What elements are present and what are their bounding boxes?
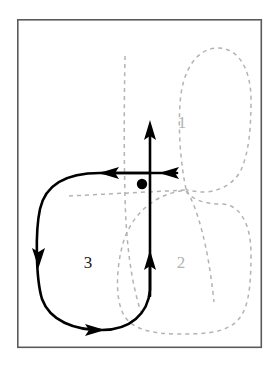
region-label-1: 1	[178, 113, 187, 132]
phase-portrait-diagram: 1 2 3	[0, 0, 279, 370]
region-label-2: 2	[177, 253, 186, 272]
figure-container: 1 2 3	[0, 0, 279, 370]
equilibrium-dot	[137, 179, 147, 189]
region-label-3: 3	[84, 253, 93, 272]
